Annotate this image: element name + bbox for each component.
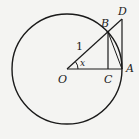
chord-BA	[108, 32, 122, 69]
point-B	[107, 31, 110, 34]
label-D: D	[117, 5, 127, 18]
label-C: C	[104, 73, 113, 86]
label-A: A	[125, 62, 134, 75]
angle-arc-x	[76, 62, 79, 69]
label-angle: x	[80, 58, 85, 68]
unit-circle-diagram: O A B C D 1 x	[0, 0, 139, 139]
label-radius: 1	[76, 40, 83, 53]
label-B: B	[100, 17, 109, 30]
label-O: O	[58, 73, 67, 86]
